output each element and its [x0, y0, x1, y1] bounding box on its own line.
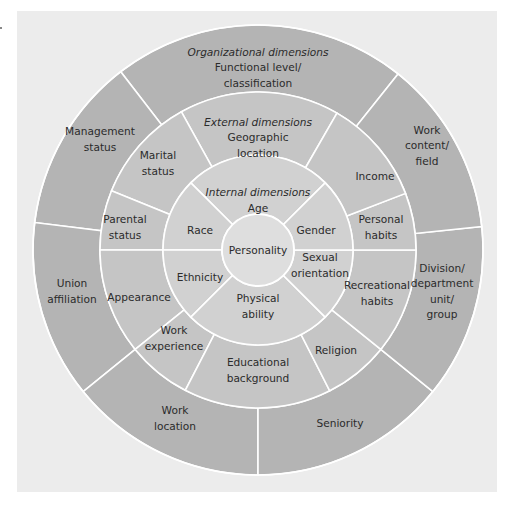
label-appearance: Appearance: [107, 291, 171, 303]
label-ethnicity: Ethnicity: [177, 271, 223, 283]
diversity-wheel: Internal dimensionsAgeRaceEthnicityPhysi…: [0, 0, 514, 509]
label-gender: Gender: [296, 224, 336, 236]
label-seniority: Seniority: [316, 417, 363, 429]
label-personality: Personality: [229, 244, 287, 256]
label-race: Race: [187, 224, 213, 236]
label-income: Income: [356, 170, 395, 182]
label-religion: Religion: [315, 344, 357, 356]
